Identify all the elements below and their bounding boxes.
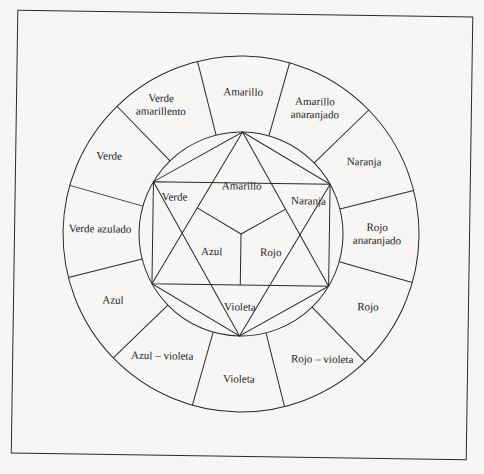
ring-label-rojo-violeta: Rojo – violeta: [291, 352, 354, 366]
color-wheel-drawing: [0, 0, 484, 474]
ring-label-amarillo: Amarillo: [223, 85, 263, 99]
ring-separator: [70, 185, 144, 206]
ring-separator: [68, 258, 142, 279]
line1: Verde: [148, 92, 174, 104]
ring-label-violeta: Violeta: [223, 372, 255, 385]
ring-label-azul: Azul: [102, 293, 124, 306]
ring-separator: [340, 189, 414, 210]
ring-label-naranja: Naranja: [347, 155, 382, 169]
ring-separator: [196, 61, 217, 135]
ring-separator: [192, 332, 213, 406]
ring-label-azul-violeta: Azul – violeta: [131, 349, 194, 363]
primary-label-amarillo: Amarillo: [222, 179, 262, 193]
ring-label-verde: Verde: [96, 149, 122, 162]
line2: anaranjado: [291, 108, 339, 121]
line1: Amarillo: [295, 95, 335, 108]
secondary-label-naranja: Naranja: [291, 194, 326, 208]
ring-label-verde-azulado: Verde azulado: [69, 222, 132, 236]
secondary-label-violeta: Violeta: [224, 300, 256, 313]
primary-label-rojo: Rojo: [260, 246, 282, 259]
primary-divider: [241, 208, 286, 234]
ring-label-amarillo-anaranjado: Amarillo anaranjado: [291, 95, 340, 122]
line1: Rojo: [366, 221, 388, 233]
ring-separator: [339, 262, 413, 283]
page: Amarillo Amarillo anaranjado Naranja Roj…: [0, 0, 484, 474]
primary-label-azul: Azul: [201, 245, 223, 258]
primary-divider: [240, 234, 241, 285]
line2: anaranjado: [353, 234, 401, 247]
ring-label-rojo-anaranjado: Rojo anaranjado: [353, 221, 402, 248]
primary-divider: [197, 208, 242, 234]
secondary-label-verde: Verde: [162, 190, 188, 203]
ring-label-rojo: Rojo: [357, 300, 379, 313]
color-wheel-figure: Amarillo Amarillo anaranjado Naranja Roj…: [0, 0, 484, 474]
ring-separator: [265, 333, 286, 407]
ring-label-verde-amarillento: Verde amarillento: [136, 91, 186, 118]
line2: amarillento: [136, 104, 186, 117]
ring-separator: [269, 62, 290, 136]
